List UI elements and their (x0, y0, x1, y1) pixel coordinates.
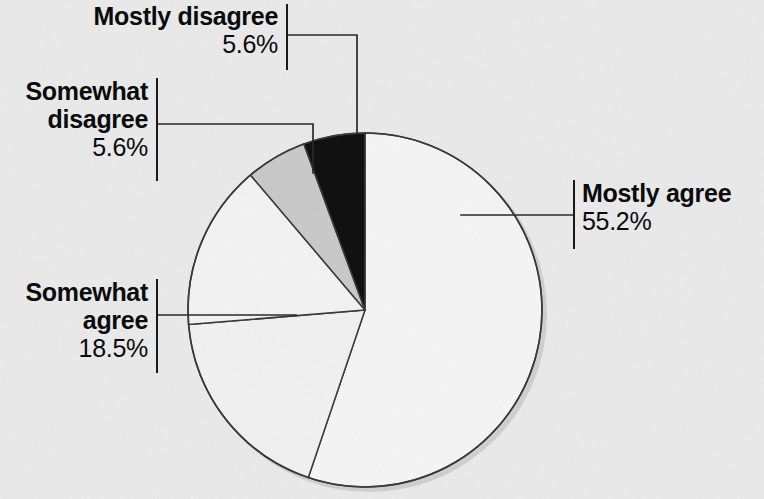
label-mostly-agree-name: Mostly agree (582, 179, 764, 207)
pie-slices-group (188, 133, 542, 487)
label-somewhat-agree-name-line1: Somewhat (0, 278, 148, 306)
label-somewhat-disagree: Somewhat disagree 5.6% (0, 77, 148, 161)
tickbar-somewhat-disagree (156, 78, 158, 181)
label-somewhat-agree-name-line2: agree (0, 306, 148, 334)
leader-mostly-disagree (287, 35, 357, 133)
label-somewhat-disagree-value: 5.6% (0, 133, 148, 161)
label-mostly-agree-value: 55.2% (582, 207, 764, 235)
label-somewhat-agree: Somewhat agree 18.5% (0, 278, 148, 362)
label-mostly-disagree: Mostly disagree 5.6% (56, 2, 278, 58)
label-somewhat-agree-value: 18.5% (0, 334, 148, 362)
tickbar-somewhat-agree (156, 279, 158, 373)
label-mostly-agree: Mostly agree 55.2% (582, 179, 764, 235)
label-somewhat-disagree-name-line2: disagree (0, 105, 148, 133)
label-mostly-disagree-name: Mostly disagree (56, 2, 278, 30)
tickbar-mostly-agree (573, 180, 575, 249)
pie-chart-canvas (0, 0, 764, 499)
pie-chart-figure: Mostly disagree 5.6% Somewhat disagree 5… (0, 0, 764, 499)
label-somewhat-disagree-name-line1: Somewhat (0, 77, 148, 105)
label-mostly-disagree-value: 5.6% (56, 30, 278, 58)
tickbar-mostly-disagree (286, 4, 288, 70)
